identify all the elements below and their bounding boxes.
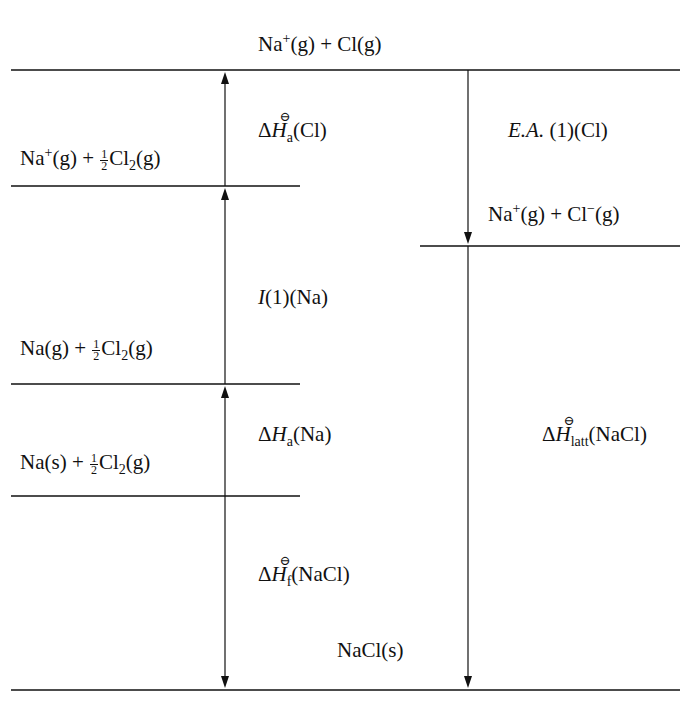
species-top: Na+(g) + Cl(g) <box>258 32 382 56</box>
arrow-down-formation <box>221 496 229 688</box>
step-formation: ΔH⊖f(NaCl) <box>258 562 350 586</box>
step-ionisation-na: I(1)(Na) <box>258 285 328 309</box>
fraction-half: 12 <box>90 453 98 476</box>
arrow-down-electron-affinity <box>464 70 472 244</box>
species-bottom: NaCl(s) <box>337 638 404 662</box>
species-right: Na+(g) + Cl−(g) <box>488 202 619 226</box>
species-level3: Na(g) + 12Cl2(g) <box>20 336 153 362</box>
step-lattice: ΔH⊖latt(NaCl) <box>542 422 647 446</box>
standard-state-symbol: ⊖ <box>280 549 291 573</box>
arrow-down-lattice <box>464 246 472 688</box>
step-atomisation-na: ΔHa(Na) <box>258 422 331 446</box>
step-electron-affinity: E.A. (1)(Cl) <box>508 118 608 142</box>
species-level4: Na(s) + 12Cl2(g) <box>20 450 150 476</box>
arrow-up-atomisation-cl <box>221 72 229 186</box>
arrow-up-ionisation-na <box>221 188 229 384</box>
standard-state-symbol: ⊖ <box>280 105 291 129</box>
standard-state-symbol: ⊖ <box>564 409 575 433</box>
arrow-up-atomisation-na <box>221 386 229 496</box>
species-level2: Na+(g) + 12Cl2(g) <box>20 146 161 172</box>
step-atomisation-cl: ΔH⊖a(Cl) <box>258 118 327 142</box>
fraction-half: 12 <box>100 149 108 172</box>
fraction-half: 12 <box>92 339 100 362</box>
